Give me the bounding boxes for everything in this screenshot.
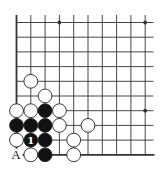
black-stone: [38, 133, 52, 147]
white-stone: [24, 74, 38, 88]
white-stone: [24, 148, 38, 162]
go-board-diagram: 1A: [0, 0, 168, 174]
point-label-a: A: [11, 147, 21, 162]
star-point-icon: [58, 21, 62, 25]
white-stone: [10, 104, 24, 118]
black-stone: [38, 119, 52, 133]
black-stone: [38, 148, 52, 162]
white-stone: [24, 104, 38, 118]
black-stone: [10, 119, 24, 133]
white-stone: [67, 148, 81, 162]
white-stone: [81, 119, 95, 133]
black-stone: [24, 119, 38, 133]
stones-layer: [10, 74, 95, 161]
white-stone: [53, 104, 67, 118]
white-stone: [38, 89, 52, 103]
white-stone: [67, 133, 81, 147]
star-point-icon: [143, 109, 147, 113]
black-stone: [38, 104, 52, 118]
star-point-icon: [143, 21, 147, 25]
move-number-label: 1: [27, 135, 34, 146]
white-stone: [53, 119, 67, 133]
white-stone: [10, 133, 24, 147]
